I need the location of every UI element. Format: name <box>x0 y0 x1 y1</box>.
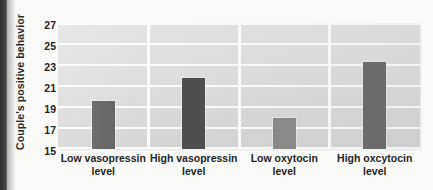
y-axis-tick-labels: 27252321191715 <box>36 24 56 148</box>
x-axis-category-labels: Low vasopressinlevelHigh vasopressinleve… <box>58 152 420 188</box>
x-axis-label-1-line-2: level <box>92 165 115 177</box>
x-axis-label-3-line-1: Low oxytocin <box>251 152 318 164</box>
x-axis-label-3-line-2: level <box>273 165 296 177</box>
y-axis-tick-21: 21 <box>44 82 56 94</box>
plot-area <box>58 23 420 149</box>
x-axis-label-2: High vasopressinlevel <box>149 152 240 177</box>
y-axis-tick-23: 23 <box>44 61 56 73</box>
x-axis-label-2-line-2: level <box>182 165 205 177</box>
y-axis-tick-19: 19 <box>44 103 56 115</box>
panel-separator-3 <box>328 23 331 149</box>
x-axis-label-2-line-1: High vasopressin <box>150 152 238 164</box>
bar-2 <box>182 78 205 149</box>
bar-4 <box>363 62 386 149</box>
x-axis-label-4: High oxcytocinlevel <box>330 152 421 177</box>
x-axis-label-3: Low oxytocinlevel <box>239 152 330 177</box>
y-axis-tick-15: 15 <box>44 145 56 157</box>
page-edge-strip <box>0 0 7 190</box>
x-axis-label-1-line-1: Low vasopressin <box>61 152 146 164</box>
bar-3 <box>273 118 296 150</box>
y-axis-tick-27: 27 <box>44 19 56 31</box>
bar-chart-figure: Couple's positive behavior 2725232119171… <box>0 0 433 190</box>
page-edge-shadow <box>7 0 16 190</box>
bar-1 <box>92 101 115 149</box>
panel-separator-2 <box>238 23 241 149</box>
x-axis-label-4-line-2: level <box>363 165 386 177</box>
panel-separator-1 <box>147 23 150 149</box>
x-axis-label-4-line-1: High oxcytocin <box>337 152 412 164</box>
x-axis-label-1: Low vasopressinlevel <box>58 152 149 177</box>
y-axis-tick-17: 17 <box>44 124 56 136</box>
y-axis-tick-25: 25 <box>44 40 56 52</box>
